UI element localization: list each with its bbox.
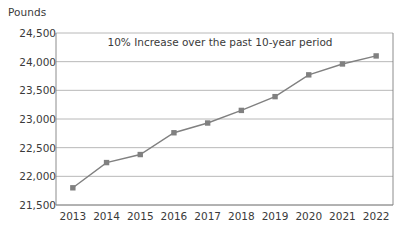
data-point-marker bbox=[306, 72, 311, 77]
series-line bbox=[73, 56, 376, 188]
gridlines bbox=[56, 33, 393, 205]
data-point-marker bbox=[205, 120, 210, 125]
data-point-marker bbox=[373, 53, 378, 58]
y-axis-title: Pounds bbox=[8, 6, 46, 18]
data-point-marker bbox=[104, 160, 109, 165]
data-point-marker bbox=[340, 61, 345, 66]
data-point-marker bbox=[138, 152, 143, 157]
chart-annotation: 10% Increase over the past 10-year perio… bbox=[70, 36, 370, 48]
data-point-marker bbox=[239, 108, 244, 113]
data-series-pounds bbox=[70, 53, 379, 190]
data-point-marker bbox=[70, 185, 75, 190]
data-point-marker bbox=[171, 130, 176, 135]
data-point-marker bbox=[272, 94, 277, 99]
line-chart: Pounds 21,50022,00022,50023,00023,50024,… bbox=[0, 0, 401, 245]
